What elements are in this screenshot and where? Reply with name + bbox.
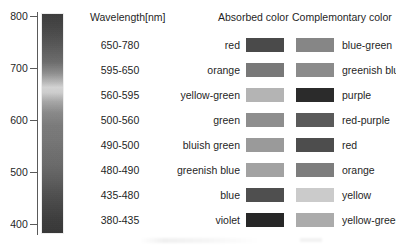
swatch-absorbed-color <box>246 188 284 202</box>
table-row: 650-780 red blue-green <box>80 35 396 55</box>
swatch-absorbed-color <box>246 63 284 77</box>
table-row: 490-500 bluish green red <box>80 135 396 155</box>
color-correspondence-table: Wavelength[nm] Absorbed color Complemont… <box>80 0 396 246</box>
wavelength-axis-line <box>37 12 38 235</box>
axis-tick-label-500: 500 <box>0 167 28 178</box>
scan-artifact <box>140 238 260 243</box>
scan-artifact-secondary <box>300 238 322 242</box>
table-row: 595-650 orange greenish blue <box>80 60 396 80</box>
table-row: 435-480 blue yellow <box>80 185 396 205</box>
spectrum-color-figure: 800 700 600 500 400 Wavelength[nm] Absor… <box>0 0 396 246</box>
swatch-absorbed-color <box>246 213 284 227</box>
cell-absorbed-color-name: red <box>132 35 240 55</box>
swatch-absorbed-color <box>246 138 284 152</box>
column-header-complementary-color: Complemontary color <box>292 12 392 23</box>
swatch-complementary-color <box>296 88 334 102</box>
cell-complementary-color-name: red <box>342 135 396 155</box>
axis-tick-mark-600 <box>30 120 37 121</box>
cell-absorbed-color-name: blue <box>132 185 240 205</box>
cell-absorbed-color-name: yellow-green <box>132 85 240 105</box>
visible-spectrum-bar <box>42 14 63 233</box>
table-row: 500-560 green red-purple <box>80 110 396 130</box>
axis-tick-mark-700 <box>30 68 37 69</box>
axis-tick-mark-500 <box>30 172 37 173</box>
axis-tick-label-600: 600 <box>0 115 28 126</box>
cell-absorbed-color-name: orange <box>132 60 240 80</box>
cell-complementary-color-name: yellow <box>342 185 396 205</box>
swatch-complementary-color <box>296 163 334 177</box>
column-header-absorbed-color: Absorbed color <box>218 12 289 23</box>
table-row: 480-490 greenish blue orange <box>80 160 396 180</box>
cell-complementary-color-name: purple <box>342 85 396 105</box>
swatch-complementary-color <box>296 138 334 152</box>
swatch-absorbed-color <box>246 163 284 177</box>
swatch-absorbed-color <box>246 38 284 52</box>
axis-tick-mark-400 <box>30 224 37 225</box>
cell-complementary-color-name: greenish blue <box>342 60 396 80</box>
column-header-wavelength: Wavelength[nm] <box>90 12 165 23</box>
spectrum-panel: 800 700 600 500 400 <box>0 0 80 246</box>
cell-absorbed-color-name: green <box>132 110 240 130</box>
axis-tick-label-700: 700 <box>0 63 28 74</box>
swatch-complementary-color <box>296 213 334 227</box>
cell-absorbed-color-name: greenish blue <box>132 160 240 180</box>
cell-complementary-color-name: red-purple <box>342 110 396 130</box>
swatch-complementary-color <box>296 38 334 52</box>
table-row: 560-595 yellow-green purple <box>80 85 396 105</box>
cell-complementary-color-name: yellow-green <box>342 210 396 230</box>
cell-absorbed-color-name: violet <box>132 210 240 230</box>
cell-absorbed-color-name: bluish green <box>132 135 240 155</box>
swatch-complementary-color <box>296 63 334 77</box>
cell-complementary-color-name: blue-green <box>342 35 396 55</box>
swatch-complementary-color <box>296 188 334 202</box>
swatch-complementary-color <box>296 113 334 127</box>
swatch-absorbed-color <box>246 113 284 127</box>
table-row: 380-435 violet yellow-green <box>80 210 396 230</box>
swatch-absorbed-color <box>246 88 284 102</box>
cell-complementary-color-name: orange <box>342 160 396 180</box>
axis-tick-label-800: 800 <box>0 11 28 22</box>
axis-tick-mark-800 <box>30 16 37 17</box>
axis-tick-label-400: 400 <box>0 219 28 230</box>
